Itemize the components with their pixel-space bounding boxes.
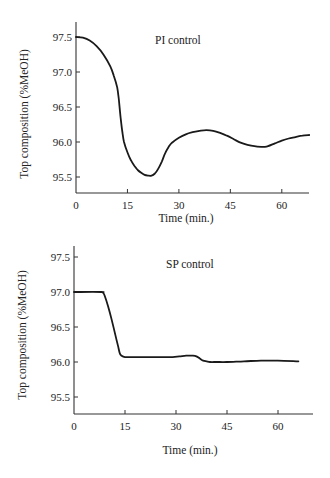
pi-x-axis-label: Time (min.) [158,212,213,225]
x-tick-label: 45 [225,199,237,211]
figure: 95.596.096.597.097.5015304560 PI control… [0,0,330,478]
x-tick-label: 60 [276,199,288,211]
sp-axes: 95.596.096.597.097.5015304560 [51,246,313,432]
x-tick-label: 60 [273,420,285,432]
y-tick-label: 95.5 [53,171,73,183]
x-tick-label: 0 [73,199,79,211]
sp-chart-title: SP control [166,258,214,270]
sp-y-axis-label: Top composition (%MeOH) [16,270,29,400]
y-tick-label: 97.5 [53,31,73,43]
pi-control-chart: 95.596.096.597.097.5015304560 PI control… [18,22,309,225]
pi-y-axis-label: Top composition (%MeOH) [18,49,31,179]
y-tick-label: 96.0 [53,136,73,148]
pi-chart-title: PI control [155,34,201,46]
y-tick-label: 96.5 [53,101,73,113]
x-tick-label: 45 [222,420,234,432]
sp-control-chart: 95.596.096.597.097.5015304560 SP control… [16,246,313,457]
pi-control-curve [76,37,309,176]
x-tick-label: 15 [122,199,134,211]
y-tick-label: 97.5 [51,251,71,263]
x-tick-label: 30 [173,199,185,211]
sp-x-axis-label: Time (min.) [162,444,217,457]
x-tick-label: 0 [71,420,77,432]
y-tick-label: 97.0 [51,286,71,298]
y-tick-label: 97.0 [53,66,73,78]
y-tick-label: 96.5 [51,321,71,333]
y-tick-label: 96.0 [51,356,71,368]
pi-axes: 95.596.096.597.097.5015304560 [53,22,309,211]
x-tick-label: 30 [171,420,183,432]
y-tick-label: 95.5 [51,391,71,403]
sp-control-curve [74,292,298,362]
x-tick-label: 15 [120,420,132,432]
